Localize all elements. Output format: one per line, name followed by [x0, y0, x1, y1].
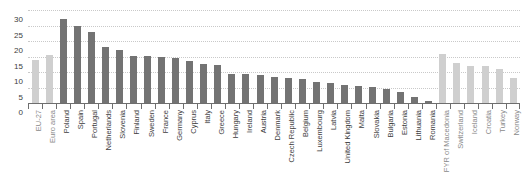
x-tick [351, 103, 365, 109]
y-tick-label: 5 [19, 94, 23, 102]
bar-slot [56, 10, 70, 103]
x-tick [253, 103, 267, 109]
bars-layer [28, 10, 520, 103]
bar-slot [28, 10, 42, 103]
bar-slot [351, 10, 365, 103]
x-label-slot: Croatia [478, 110, 492, 181]
y-tick-label: 0 [19, 109, 23, 117]
bar-slot [84, 10, 98, 103]
bar [74, 26, 81, 104]
tick-mark [169, 103, 170, 109]
x-tick [464, 103, 478, 109]
tick-mark [337, 103, 338, 109]
x-tick [366, 103, 380, 109]
bar [200, 64, 207, 103]
x-label-slot: Turkey [492, 110, 506, 181]
x-label-slot: Netherlands [98, 110, 112, 181]
x-axis-ticks [28, 103, 520, 109]
tick-mark [366, 103, 367, 109]
x-label-slot: Finland [126, 110, 140, 181]
bar-slot [70, 10, 84, 103]
bar [88, 32, 95, 103]
bar-slot [380, 10, 394, 103]
tick-mark [267, 103, 268, 109]
bar [285, 78, 292, 103]
x-axis-tick-label: Norway [513, 110, 521, 135]
bar [228, 74, 235, 103]
bar-slot [112, 10, 126, 103]
tick-mark [380, 103, 381, 109]
x-tick [141, 103, 155, 109]
tick-mark [506, 103, 507, 109]
tick-mark [519, 103, 520, 109]
bar-slot [197, 10, 211, 103]
tick-mark [281, 103, 282, 109]
bar [130, 56, 137, 103]
bar-slot [141, 10, 155, 103]
y-axis: 051015202530 [0, 10, 26, 103]
bar [32, 60, 39, 103]
bar [102, 47, 109, 103]
bar [341, 85, 348, 103]
x-label-slot: Belgium [295, 110, 309, 181]
x-tick [70, 103, 84, 109]
tick-mark [42, 103, 43, 109]
x-label-slot: United Kingdom [337, 110, 351, 181]
tick-mark [155, 103, 156, 109]
bar-slot [506, 10, 520, 103]
x-tick [42, 103, 56, 109]
x-tick [436, 103, 450, 109]
bar-slot [183, 10, 197, 103]
x-tick [169, 103, 183, 109]
x-tick [211, 103, 225, 109]
x-tick [281, 103, 295, 109]
bar-slot [42, 10, 56, 103]
bar-slot [253, 10, 267, 103]
x-label-slot: FYR of Macedonia [436, 110, 450, 181]
plot-area [28, 10, 520, 103]
x-tick [337, 103, 351, 109]
x-label-slot: Bulgaria [380, 110, 394, 181]
x-label-slot: Greece [211, 110, 225, 181]
bar [510, 78, 517, 103]
x-label-slot: Norway [506, 110, 520, 181]
bar-slot [436, 10, 450, 103]
x-tick [112, 103, 126, 109]
bar-slot [394, 10, 408, 103]
x-tick [84, 103, 98, 109]
x-label-slot: France [155, 110, 169, 181]
bar [355, 86, 362, 103]
bar [453, 63, 460, 103]
y-tick-label: 20 [14, 47, 23, 55]
x-tick [98, 103, 112, 109]
x-label-slot: Spain [70, 110, 84, 181]
bar [439, 54, 446, 103]
x-label-slot: Poland [56, 110, 70, 181]
x-label-slot: Euro area [42, 110, 56, 181]
x-label-slot: Slovakia [366, 110, 380, 181]
bar [299, 79, 306, 103]
x-tick [155, 103, 169, 109]
bar [242, 74, 249, 103]
tick-mark [141, 103, 142, 109]
x-label-slot: Ireland [239, 110, 253, 181]
bar-chart: 051015202530 EU-27Euro areaPolandSpainPo… [0, 0, 525, 181]
tick-mark [309, 103, 310, 109]
x-label-slot: Austria [253, 110, 267, 181]
bar [158, 57, 165, 104]
bar-slot [225, 10, 239, 103]
x-label-slot: EU-27 [28, 110, 42, 181]
bar [467, 66, 474, 104]
bar-slot [126, 10, 140, 103]
bar-slot [464, 10, 478, 103]
x-tick [126, 103, 140, 109]
x-label-slot: Estonia [394, 110, 408, 181]
bar-slot [408, 10, 422, 103]
bar-slot [323, 10, 337, 103]
bar-slot [98, 10, 112, 103]
x-tick [309, 103, 323, 109]
bar [144, 56, 151, 103]
x-tick [225, 103, 239, 109]
tick-mark [492, 103, 493, 109]
x-tick [183, 103, 197, 109]
